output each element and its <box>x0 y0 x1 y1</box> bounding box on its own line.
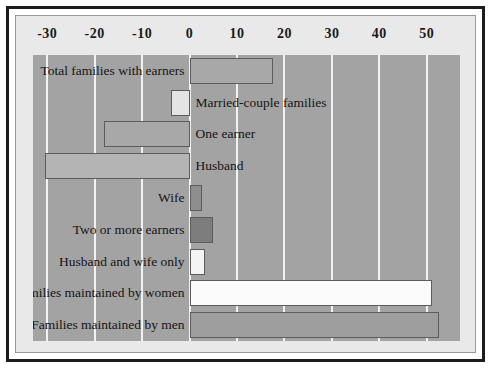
bar-label-8: Families maintained by men <box>33 318 190 332</box>
x-tick-label-0: -30 <box>37 26 57 42</box>
bar-0 <box>190 58 273 84</box>
bar-chart: -30-20-1001020304050 Total families with… <box>0 0 493 370</box>
x-tick-label-3: 0 <box>186 26 194 42</box>
bar-label-2: One earner <box>190 128 256 142</box>
bar-4 <box>190 185 202 211</box>
bar-5 <box>190 217 214 243</box>
bar-label-5: Two or more earners <box>73 223 190 237</box>
x-tick-label-4: 10 <box>230 26 245 42</box>
bar-label-4: Wife <box>158 191 189 205</box>
bar-label-7: Families maintained by women <box>33 287 190 301</box>
bar-label-1: Married-couple families <box>190 96 327 110</box>
bar-7 <box>190 280 432 306</box>
x-axis-tick-labels: -30-20-1001020304050 <box>33 26 460 52</box>
bar-2 <box>104 121 189 147</box>
x-tick-label-8: 50 <box>419 26 434 42</box>
bar-label-0: Total families with earners <box>40 64 189 78</box>
x-tick-label-1: -20 <box>85 26 105 42</box>
plot-area: Total families with earnersMarried-coupl… <box>33 55 460 341</box>
bar-1 <box>171 90 190 116</box>
x-tick-label-5: 20 <box>277 26 292 42</box>
bar-8 <box>190 312 439 338</box>
x-tick-label-6: 30 <box>324 26 339 42</box>
bar-6 <box>190 249 206 275</box>
x-tick-label-2: -10 <box>132 26 152 42</box>
bar-label-3: Husband <box>190 159 244 173</box>
x-tick-label-7: 40 <box>372 26 387 42</box>
bar-3 <box>45 153 190 179</box>
bar-label-6: Husband and wife only <box>59 255 190 269</box>
